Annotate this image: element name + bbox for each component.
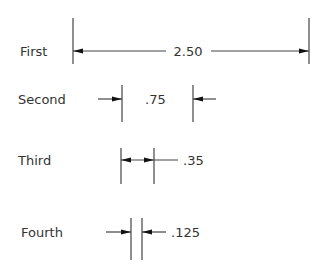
arrowhead-right-icon xyxy=(299,49,309,54)
arrowhead-left-icon xyxy=(121,158,131,163)
dimension-value-second: .75 xyxy=(145,92,166,107)
row-fourth: Fourth .125 xyxy=(21,218,200,260)
row-label-second: Second xyxy=(18,92,66,107)
row-third: Third .35 xyxy=(17,148,204,184)
arrowhead-right-icon xyxy=(142,230,152,235)
arrowhead-left-icon xyxy=(73,49,83,54)
dimension-value-fourth: .125 xyxy=(171,225,200,240)
dimension-value-first: 2.50 xyxy=(174,44,203,59)
row-label-third: Third xyxy=(17,153,51,168)
arrowhead-left-icon xyxy=(112,97,122,102)
dimension-diagram: First 2.50 Second .75 Third xyxy=(0,0,327,275)
diagram-svg: First 2.50 Second .75 Third xyxy=(0,0,327,275)
row-label-fourth: Fourth xyxy=(21,225,63,240)
arrowhead-right-icon xyxy=(144,158,154,163)
row-second: Second .75 xyxy=(18,85,216,122)
row-label-first: First xyxy=(20,44,47,59)
arrowhead-left-icon xyxy=(121,230,131,235)
row-first: First 2.50 xyxy=(20,18,309,64)
arrowhead-right-icon xyxy=(193,97,203,102)
dimension-value-third: .35 xyxy=(183,153,204,168)
